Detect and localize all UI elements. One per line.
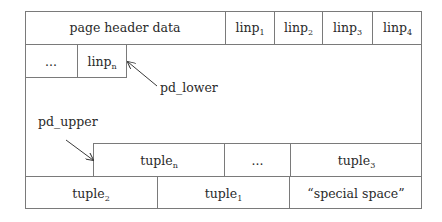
pointer-arrows <box>0 0 442 222</box>
page-layout-diagram: page header data linp1 linp2 linp3 linp4… <box>0 0 442 222</box>
pd-upper-arrow-icon <box>66 140 93 160</box>
pd-lower-arrow-icon <box>128 62 157 86</box>
